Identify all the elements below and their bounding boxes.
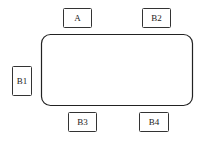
seat-b4: B4 (140, 113, 169, 132)
table (42, 35, 193, 106)
seat-b2: B2 (143, 9, 171, 28)
seat-a: A (64, 9, 92, 28)
seat-b4-label: B4 (149, 117, 160, 127)
seat-a-label: A (74, 13, 81, 23)
seat-b3: B3 (69, 113, 97, 132)
seat-b1-label: B1 (17, 76, 28, 86)
seat-b1: B1 (13, 67, 32, 96)
seat-b2-label: B2 (151, 13, 162, 23)
seating-diagram: A B2 B1 B3 B4 (0, 0, 204, 142)
seat-b3-label: B3 (77, 117, 88, 127)
